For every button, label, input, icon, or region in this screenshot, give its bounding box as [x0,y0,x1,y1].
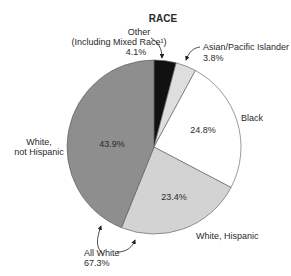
other-label-line2: (Including Mixed Race¹) [71,37,166,47]
white-not-hispanic-value: 43.9% [99,139,125,149]
asian-arrow [186,47,200,60]
all-white-value: 67.3% [84,258,110,268]
white-hispanic-label: White, Hispanic [196,231,259,241]
pie-slices [67,60,241,234]
other-label-line1: Other [128,27,151,37]
asian-value: 3.8% [203,53,224,63]
black-label: Black [241,113,263,123]
other-value: 4.1% [126,47,147,57]
black-value: 24.8% [190,125,216,135]
white-hispanic-value: 23.4% [161,192,187,202]
all-white-arrow-right [117,240,135,252]
white-not-hispanic-label-line2: not Hispanic [14,147,64,157]
chart-title: RACE [149,14,177,24]
asian-label: Asian/Pacific Islander [203,42,289,52]
white-not-hispanic-label-line1: White, [26,137,52,147]
all-white-label: All White [84,248,120,258]
race-pie-chart: RACE Other (Including Mixed Race¹) 4.1% … [0,0,291,276]
